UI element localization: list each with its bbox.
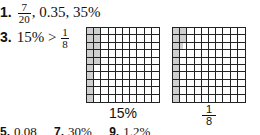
grid-cell	[87, 50, 94, 57]
grid-cell	[209, 65, 216, 72]
answers-row-bottom: 5.0.08 7.30% 9.1.2%	[0, 124, 164, 135]
grid-cell	[231, 58, 238, 65]
grid-cell	[202, 95, 209, 102]
grid-cell	[202, 50, 209, 57]
grid-cell	[216, 43, 223, 50]
grid-cell	[116, 28, 123, 35]
grid-cell	[123, 35, 130, 42]
grid-cell	[216, 35, 223, 42]
grid-cell	[209, 28, 216, 35]
grid-cell	[101, 43, 108, 50]
grid-cell	[94, 43, 101, 50]
grid-cell	[238, 43, 245, 50]
grid-cell	[116, 35, 123, 42]
grid-cell	[216, 58, 223, 65]
answer-number: 3.	[0, 29, 12, 45]
answer-number: 5.	[0, 125, 10, 135]
fraction: 18	[61, 27, 69, 50]
grid-cell	[216, 50, 223, 57]
grid-cell	[238, 72, 245, 79]
grid-cell	[202, 58, 209, 65]
grid-cell	[202, 65, 209, 72]
grid-cell	[187, 28, 194, 35]
grid-cell	[209, 58, 216, 65]
grid-cell	[116, 80, 123, 87]
grid-cell	[130, 72, 137, 79]
grid-cell	[94, 50, 101, 57]
grid-cell	[123, 58, 130, 65]
grid-cell	[130, 80, 137, 87]
grid-cell	[94, 87, 101, 94]
grid-cell	[116, 87, 123, 94]
answer-number: 1.	[0, 4, 12, 20]
grid-cell	[152, 72, 159, 79]
hundred-grid-15-percent	[86, 27, 160, 103]
grid-cell	[231, 43, 238, 50]
grid-cell	[130, 35, 137, 42]
grid-cell	[123, 50, 130, 57]
grid-cell	[238, 65, 245, 72]
grid-cell	[238, 35, 245, 42]
grid-cell	[180, 28, 187, 35]
grid-cell	[101, 65, 108, 72]
grid-cell	[145, 65, 152, 72]
grid-cell	[116, 72, 123, 79]
grid-cell	[145, 95, 152, 102]
grid-cell	[216, 87, 223, 94]
grid-cell	[109, 80, 116, 87]
grid-cell	[231, 72, 238, 79]
grid-cell	[195, 58, 202, 65]
grid-cell	[223, 72, 230, 79]
grid-cell	[87, 35, 94, 42]
grid-cell	[238, 28, 245, 35]
grid-cell	[137, 65, 144, 72]
grid-cell	[231, 87, 238, 94]
grid-cell	[223, 50, 230, 57]
grid-cell	[202, 87, 209, 94]
grid-cell	[94, 58, 101, 65]
grid-cell	[130, 58, 137, 65]
grid-cell	[173, 28, 180, 35]
grid-cell	[195, 95, 202, 102]
grid-cell	[238, 50, 245, 57]
grid-cell	[123, 87, 130, 94]
denominator: 20	[18, 14, 31, 25]
answer-text: , 0.35, 35%	[32, 4, 101, 20]
grid-cell	[109, 43, 116, 50]
grid-cell	[123, 95, 130, 102]
grid-cell	[180, 65, 187, 72]
grid-cell	[145, 50, 152, 57]
grid-cell	[101, 95, 108, 102]
grid-cell	[202, 35, 209, 42]
grid-cell	[187, 87, 194, 94]
grid-cell	[109, 87, 116, 94]
grid-cell	[123, 65, 130, 72]
grid-cell	[87, 87, 94, 94]
grid-cell	[137, 35, 144, 42]
answer-7: 7.30%	[54, 124, 92, 135]
grid-cell	[202, 72, 209, 79]
grid-cell	[101, 35, 108, 42]
grid-cell	[180, 50, 187, 57]
fraction: 720	[18, 2, 31, 25]
grid-cell	[187, 80, 194, 87]
grid-cell	[238, 87, 245, 94]
grid-cell	[94, 72, 101, 79]
grid-cell	[231, 95, 238, 102]
grid-cell	[116, 58, 123, 65]
grid-cell	[87, 43, 94, 50]
grid-cell	[152, 58, 159, 65]
grid-cell	[209, 72, 216, 79]
grid-cell	[130, 95, 137, 102]
grid-cell	[231, 50, 238, 57]
grid-cell	[209, 35, 216, 42]
grid-cell	[137, 50, 144, 57]
grid-cell	[87, 28, 94, 35]
grid-cell	[195, 72, 202, 79]
grid-cell	[238, 58, 245, 65]
grid-cell	[94, 95, 101, 102]
grid-cell	[101, 80, 108, 87]
grid-cell	[223, 65, 230, 72]
grid-cell	[152, 80, 159, 87]
grid-cell	[180, 35, 187, 42]
